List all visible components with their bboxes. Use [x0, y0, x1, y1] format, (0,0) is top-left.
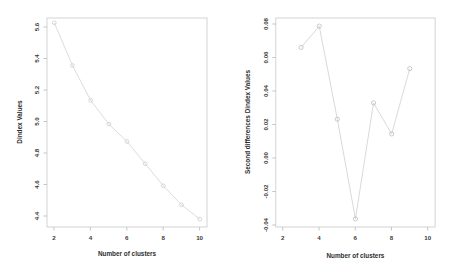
left-ytick-2: 5.2 [33, 85, 40, 94]
right-ytick-1: 0.06 [262, 51, 269, 64]
left-xtick-0: 2 [52, 234, 56, 241]
right-xtick-1: 4 [317, 234, 321, 241]
left-ytick-0: 5.6 [33, 22, 40, 31]
right-xtick-0: 2 [281, 234, 285, 241]
left-ytick-6: 4.4 [33, 211, 40, 220]
left-y-axis-title: Dindex Values [16, 100, 23, 144]
right-chart-svg: 0.08 0.06 0.04 0.02 0.00 -0.02 -0.04 2 4… [228, 0, 456, 269]
left-xtick-2: 6 [125, 234, 129, 241]
right-ytick-4: 0.00 [262, 151, 269, 164]
left-xtick-1: 4 [89, 234, 93, 241]
left-xtick-4: 10 [196, 234, 203, 241]
right-ytick-3: 0.02 [262, 118, 269, 131]
right-ytick-0: 0.08 [262, 17, 269, 30]
left-ytick-1: 5.4 [33, 54, 40, 63]
left-xtick-3: 8 [161, 234, 165, 241]
left-plot-background [0, 0, 228, 269]
left-ytick-3: 5.0 [33, 117, 40, 126]
right-ytick-6: -0.04 [262, 217, 269, 232]
right-xtick-2: 6 [354, 234, 358, 241]
chart-page: 5.6 5.4 5.2 5.0 4.8 4.6 4.4 2 4 6 8 10 N… [0, 0, 457, 269]
right-y-axis-title: Second differences Dindex Values [244, 70, 251, 174]
right-xtick-3: 8 [390, 234, 394, 241]
right-x-axis-title: Number of clusters [326, 252, 384, 259]
left-chart-svg: 5.6 5.4 5.2 5.0 4.8 4.6 4.4 2 4 6 8 10 N… [0, 0, 228, 269]
right-ytick-5: -0.02 [262, 184, 269, 199]
left-ytick-5: 4.6 [33, 180, 40, 189]
left-x-axis-title: Number of clusters [98, 250, 157, 257]
right-ytick-2: 0.04 [262, 84, 269, 97]
left-chart-panel: 5.6 5.4 5.2 5.0 4.8 4.6 4.4 2 4 6 8 10 N… [0, 0, 228, 269]
right-chart-panel: 0.08 0.06 0.04 0.02 0.00 -0.02 -0.04 2 4… [228, 0, 456, 269]
right-xtick-4: 10 [424, 234, 431, 241]
left-ytick-4: 4.8 [33, 148, 40, 157]
